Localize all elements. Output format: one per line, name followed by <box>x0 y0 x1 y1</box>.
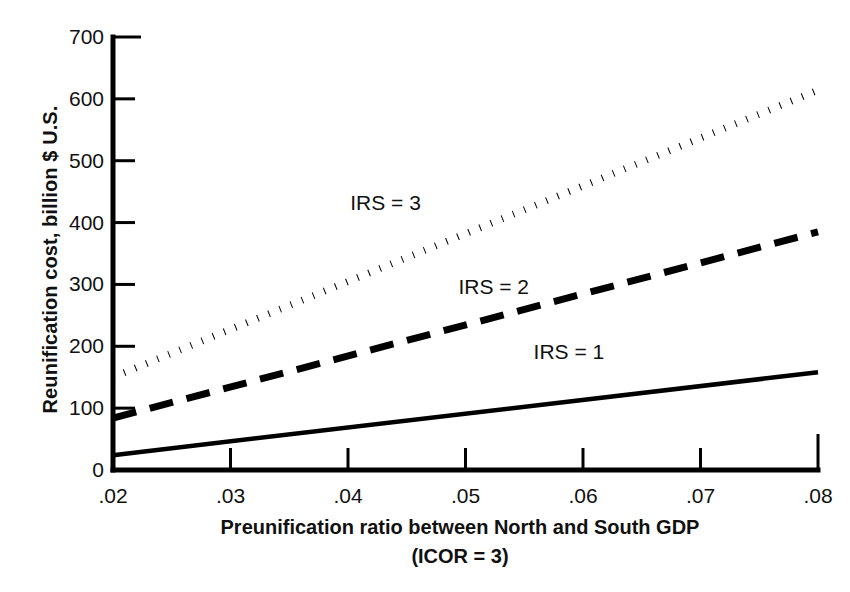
x-tick-label: .08 <box>788 484 848 508</box>
chart-figure: Reunification cost, billion $ U.S. 01002… <box>0 0 850 592</box>
x-axis-title: Preunification ratio between North and S… <box>35 516 850 539</box>
x-tick-label: .06 <box>553 484 613 508</box>
x-axis-tick-labels: .02.03.04.05.06.07.08 <box>0 0 850 592</box>
x-tick-label: .02 <box>83 484 143 508</box>
series-label-irs1: IRS = 1 <box>534 340 605 364</box>
x-axis-subtitle: (ICOR = 3) <box>35 545 850 568</box>
x-tick-label: .04 <box>318 484 378 508</box>
x-tick-label: .05 <box>436 484 496 508</box>
x-tick-label: .07 <box>671 484 731 508</box>
x-tick-label: .03 <box>201 484 261 508</box>
series-label-irs3: IRS = 3 <box>350 191 421 215</box>
series-label-irs2: IRS = 2 <box>458 275 529 299</box>
